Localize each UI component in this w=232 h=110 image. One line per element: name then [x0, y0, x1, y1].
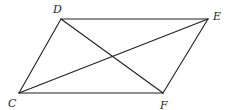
vertex-label-f: F — [159, 99, 168, 110]
vertex-label-c: C — [8, 97, 17, 110]
vertex-label-e: E — [212, 10, 221, 23]
edges — [19, 19, 208, 93]
vertex-label-d: D — [52, 3, 62, 16]
side-CD — [19, 19, 61, 93]
side-EF — [163, 19, 208, 93]
diagonal-CE — [19, 19, 208, 93]
parallelogram-diagram: D E C F — [0, 0, 232, 110]
